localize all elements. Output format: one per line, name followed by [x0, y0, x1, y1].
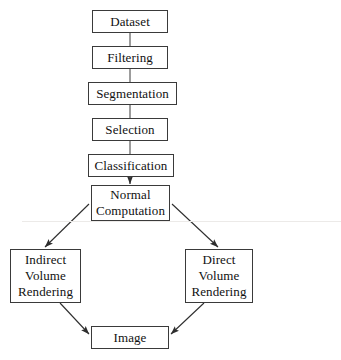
node-segmentation: Segmentation: [88, 82, 177, 105]
node-indirect-volume-rendering: Indirect Volume Rendering: [10, 249, 81, 303]
edge-normal-direct: [172, 204, 218, 247]
edge-direct-image: [171, 303, 204, 334]
node-dataset-line-1: Dataset: [110, 14, 150, 30]
node-filtering-line-1: Filtering: [107, 50, 153, 66]
pipeline-flowchart: Dataset Filtering Segmentation Selection…: [0, 0, 341, 360]
node-filtering: Filtering: [92, 46, 168, 69]
scan-artifact-line: [22, 221, 341, 222]
node-direct-volume-rendering-line-3: Rendering: [191, 284, 246, 300]
node-indirect-volume-rendering-line-3: Rendering: [18, 284, 73, 300]
node-image-line-1: Image: [114, 330, 147, 346]
edge-normal-indirect: [45, 204, 89, 247]
node-normal-computation-line-2: Computation: [96, 203, 165, 219]
node-indirect-volume-rendering-line-2: Volume: [25, 268, 66, 284]
node-normal-computation-line-1: Normal: [110, 187, 150, 203]
node-selection: Selection: [92, 118, 168, 141]
node-classification-line-1: Classification: [95, 158, 168, 174]
node-selection-line-1: Selection: [105, 122, 154, 138]
node-normal-computation: Normal Computation: [91, 185, 170, 221]
node-indirect-volume-rendering-line-1: Indirect: [25, 252, 66, 268]
node-dataset: Dataset: [92, 10, 168, 33]
node-direct-volume-rendering-line-1: Direct: [202, 252, 235, 268]
node-classification: Classification: [88, 154, 174, 177]
node-segmentation-line-1: Segmentation: [96, 86, 169, 102]
node-image: Image: [91, 326, 169, 349]
edge-layer: [0, 0, 341, 360]
node-direct-volume-rendering-line-2: Volume: [199, 268, 240, 284]
node-direct-volume-rendering: Direct Volume Rendering: [185, 249, 253, 303]
edge-indirect-image: [60, 303, 89, 334]
